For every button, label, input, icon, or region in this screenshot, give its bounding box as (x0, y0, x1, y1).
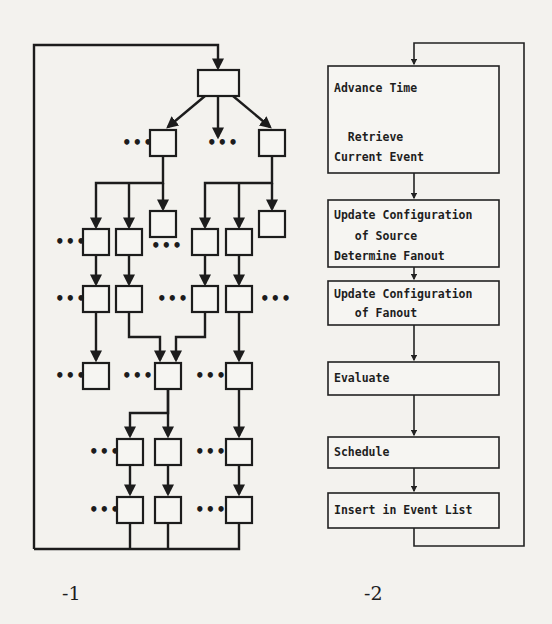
step-1-line-3: Retrieve (334, 127, 403, 148)
svg-text:•••: ••• (55, 290, 87, 308)
svg-text:•••: ••• (195, 443, 227, 461)
figure-label-right: -2 (364, 582, 383, 604)
step-2-line-1: Update Configuration (334, 205, 472, 226)
step-5-line-1: Schedule (334, 442, 389, 463)
step-3-line-1: Update Configuration (334, 284, 472, 305)
svg-text:•••: ••• (122, 367, 154, 385)
step-1-line-4: Current Event (334, 147, 424, 168)
left-tree-diagram: ••• ••• ••• ••• ••• ••• ••• (34, 45, 292, 549)
step-2-line-2: of Source (334, 226, 417, 247)
svg-text:•••: ••• (207, 134, 239, 152)
svg-text:•••: ••• (55, 233, 87, 251)
svg-text:•••: ••• (195, 367, 227, 385)
svg-text:•••: ••• (195, 501, 227, 519)
root-box (198, 70, 239, 96)
figure-canvas: ••• ••• ••• ••• ••• ••• ••• (0, 0, 552, 624)
svg-text:•••: ••• (55, 367, 87, 385)
svg-text:•••: ••• (151, 237, 183, 255)
step-1-line-1: Advance Time (334, 78, 417, 99)
step-2-line-3: Determine Fanout (334, 246, 445, 267)
svg-text:•••: ••• (157, 290, 189, 308)
svg-text:•••: ••• (89, 443, 121, 461)
diagram-svg: ••• ••• ••• ••• ••• ••• ••• (0, 0, 552, 624)
step-4-line-1: Evaluate (334, 368, 389, 389)
figure-label-left: -1 (62, 582, 81, 604)
step-6-line-1: Insert in Event List (334, 500, 472, 521)
svg-text:•••: ••• (260, 290, 292, 308)
step-3-line-2: of Fanout (334, 303, 417, 324)
svg-text:•••: ••• (89, 501, 121, 519)
